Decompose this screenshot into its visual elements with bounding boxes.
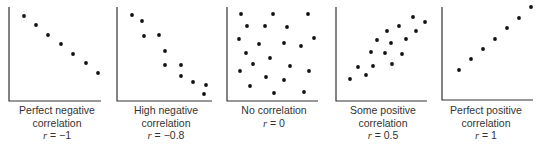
data-point bbox=[142, 34, 146, 38]
data-point bbox=[237, 37, 241, 41]
data-point bbox=[423, 20, 427, 24]
data-point bbox=[204, 83, 208, 87]
data-point bbox=[163, 63, 167, 67]
r-value: r = −1 bbox=[0, 129, 117, 143]
data-point bbox=[312, 36, 316, 40]
data-point bbox=[371, 64, 375, 68]
caption-perfect-positive: Perfect positive correlation r = 1 bbox=[426, 104, 541, 143]
caption-line1: No correlation bbox=[214, 104, 334, 117]
data-point bbox=[306, 12, 310, 16]
r-value: r = 1 bbox=[426, 129, 541, 143]
data-point bbox=[268, 56, 272, 60]
r-value: r = 0.5 bbox=[323, 129, 443, 143]
scatter-panel-perfect-negative bbox=[9, 7, 101, 101]
caption-line2: correlation bbox=[426, 117, 541, 130]
data-point bbox=[288, 64, 292, 68]
caption-line1: Perfect negative bbox=[0, 104, 117, 117]
data-point bbox=[84, 61, 88, 65]
scatter-panel-high-negative bbox=[117, 7, 212, 101]
data-point bbox=[46, 33, 50, 37]
data-point bbox=[299, 44, 303, 48]
data-point bbox=[245, 24, 249, 28]
data-point bbox=[385, 29, 389, 33]
data-point bbox=[248, 84, 252, 88]
data-point bbox=[130, 13, 134, 17]
data-point bbox=[397, 24, 401, 28]
data-point bbox=[263, 24, 267, 28]
scatter-panel-perfect-positive bbox=[442, 5, 533, 100]
caption-line2: correlation bbox=[323, 117, 443, 130]
data-point bbox=[364, 73, 368, 77]
data-point bbox=[96, 71, 100, 75]
data-point bbox=[157, 33, 161, 37]
data-point bbox=[282, 41, 286, 45]
data-point bbox=[302, 90, 306, 94]
r-value: r = 0 bbox=[214, 117, 334, 131]
data-point bbox=[244, 51, 248, 55]
data-point bbox=[239, 12, 243, 16]
caption-high-negative: High negative correlation r = −0.8 bbox=[106, 104, 226, 143]
data-point bbox=[414, 29, 418, 33]
data-point bbox=[264, 75, 268, 79]
data-point bbox=[389, 41, 393, 45]
caption-perfect-negative: Perfect negative correlation r = −1 bbox=[0, 104, 117, 143]
data-point bbox=[59, 42, 63, 46]
data-point bbox=[493, 37, 497, 41]
axis-lines bbox=[9, 7, 101, 101]
data-point bbox=[257, 42, 261, 46]
r-value: r = −0.8 bbox=[106, 129, 226, 143]
caption-line1: Some positive bbox=[323, 104, 443, 117]
scatter-panel-no-correlation bbox=[227, 7, 318, 101]
caption-line2: correlation bbox=[106, 117, 226, 130]
data-point bbox=[163, 49, 167, 53]
data-point bbox=[271, 12, 275, 16]
caption-line2: correlation bbox=[0, 117, 117, 130]
data-point bbox=[383, 51, 387, 55]
caption-some-positive: Some positive correlation r = 0.5 bbox=[323, 104, 443, 143]
data-point bbox=[179, 63, 183, 67]
caption-no-correlation: No correlation r = 0 bbox=[214, 104, 334, 130]
data-point bbox=[390, 62, 394, 66]
data-point bbox=[191, 80, 195, 84]
data-point bbox=[529, 5, 533, 9]
axis-lines bbox=[442, 7, 533, 100]
data-point bbox=[400, 52, 404, 56]
data-point bbox=[469, 57, 473, 61]
axis-lines bbox=[227, 7, 318, 101]
data-point bbox=[272, 91, 276, 95]
caption-line1: High negative bbox=[106, 104, 226, 117]
scatter-panel-some-positive bbox=[336, 7, 427, 101]
data-point bbox=[22, 14, 26, 18]
caption-line1: Perfect positive bbox=[426, 104, 541, 117]
data-point bbox=[71, 52, 75, 56]
data-point bbox=[307, 69, 311, 73]
data-point bbox=[375, 38, 379, 42]
data-point bbox=[457, 68, 461, 72]
data-point bbox=[179, 74, 183, 78]
data-point bbox=[202, 92, 206, 96]
data-point bbox=[282, 78, 286, 82]
data-point bbox=[369, 50, 373, 54]
data-point bbox=[348, 77, 352, 81]
data-point bbox=[140, 19, 144, 23]
data-point bbox=[411, 15, 415, 19]
data-point bbox=[481, 47, 485, 51]
data-point bbox=[505, 26, 509, 30]
axis-lines bbox=[117, 7, 212, 101]
data-point bbox=[517, 16, 521, 20]
data-point bbox=[251, 62, 255, 66]
axis-lines bbox=[336, 7, 427, 101]
data-point bbox=[238, 69, 242, 73]
data-point bbox=[356, 65, 360, 69]
data-point bbox=[285, 25, 289, 29]
data-point bbox=[404, 37, 408, 41]
data-point bbox=[34, 23, 38, 27]
